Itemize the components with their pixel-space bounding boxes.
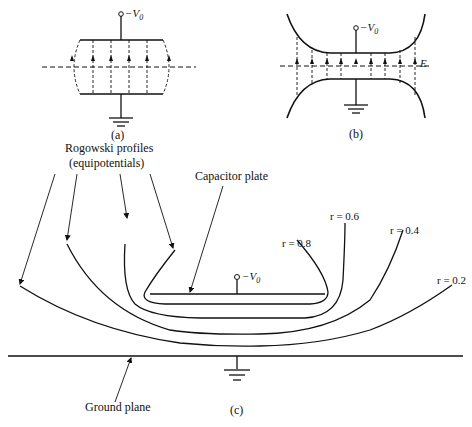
figure-c-rogowski-profiles xyxy=(8,174,463,402)
label-r-0.6: r = 0.6 xyxy=(330,211,359,222)
diagram-canvas xyxy=(0,0,472,427)
terminal-b-icon xyxy=(354,26,359,31)
caption-c: (c) xyxy=(230,404,243,416)
field-label-e: E xyxy=(420,58,427,69)
rogowski-label-2: (equipotentials) xyxy=(69,157,144,169)
terminal-c-label: −V0 xyxy=(242,271,260,285)
label-r-0.4: r = 0.4 xyxy=(390,225,419,236)
label-r-0.2: r = 0.2 xyxy=(437,275,466,286)
ground-plane-label: Ground plane xyxy=(85,401,151,413)
terminal-a-icon xyxy=(119,12,124,17)
figure-a-parallel-plates xyxy=(42,12,196,126)
terminal-a-label: −V0 xyxy=(125,8,143,22)
rogowski-label-1: Rogowski profiles xyxy=(65,142,153,154)
caption-a: (a) xyxy=(111,129,124,141)
figure-b-rogowski-electrodes xyxy=(280,14,432,118)
caption-b: (b) xyxy=(349,128,363,140)
label-r-0.8: r = 0.8 xyxy=(282,238,311,249)
capacitor-plate-label: Capacitor plate xyxy=(195,170,268,182)
terminal-b-label: −V0 xyxy=(360,22,378,36)
terminal-c-icon xyxy=(235,275,240,280)
